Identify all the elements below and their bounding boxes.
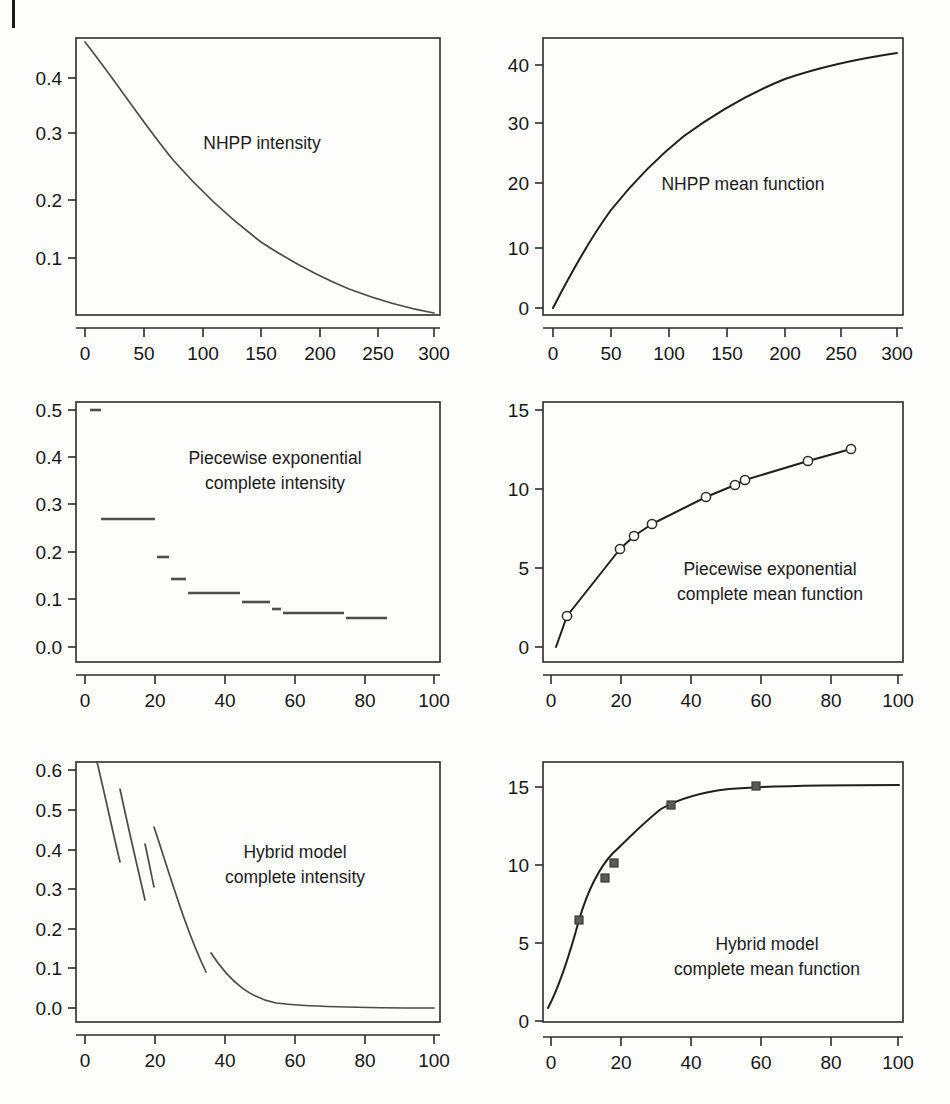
x-tick-label: 60 <box>284 1050 305 1071</box>
y-tick-label: 0.3 <box>36 494 62 515</box>
plot-frame <box>76 402 440 662</box>
data-markers <box>575 782 760 924</box>
x-tick-label: 80 <box>354 1050 375 1071</box>
y-tick-label: 0.4 <box>36 447 63 468</box>
x-tick-label: 0 <box>80 1050 91 1071</box>
y-tick-label: 0.3 <box>36 879 62 900</box>
data-point-marker <box>752 782 760 790</box>
intensity-segment <box>145 844 154 887</box>
y-tick-label: 0.4 <box>36 840 63 861</box>
panel-title-line1: Hybrid model <box>243 842 346 862</box>
x-tick-label: 0 <box>80 343 91 364</box>
data-point-marker <box>562 611 571 620</box>
data-point-marker <box>701 492 710 501</box>
intensity-segment <box>120 789 145 900</box>
y-tick-label: 0.2 <box>36 919 62 940</box>
x-axis-ticks <box>76 1035 440 1044</box>
x-tick-label: 150 <box>711 343 743 364</box>
data-point-marker <box>846 444 855 453</box>
y-tick-label: 10 <box>508 479 529 500</box>
x-tick-label: 100 <box>882 690 914 711</box>
x-tick-label: 80 <box>820 1052 841 1073</box>
x-tick-label: 0 <box>548 343 559 364</box>
plot-frame <box>76 38 440 315</box>
y-tick-label: 40 <box>508 55 529 76</box>
x-tick-label: 40 <box>214 1050 235 1071</box>
panel-piecewise-exponential-complete-intensity: 0.5 0.4 0.3 0.2 0.1 0.0 0 20 40 60 80 10… <box>0 385 470 735</box>
y-tick-label: 0.5 <box>36 400 62 421</box>
x-tick-label: 50 <box>600 343 621 364</box>
y-tick-label: 0.3 <box>36 123 62 144</box>
x-tick-label: 100 <box>882 1052 914 1073</box>
x-tick-label: 50 <box>133 343 154 364</box>
x-tick-label: 200 <box>304 343 336 364</box>
chart-nhpp-mean-function: 40 30 20 10 0 0 50 100 150 200 250 300 <box>475 20 945 370</box>
panel-title-line2: complete mean function <box>677 584 863 604</box>
data-point-marker <box>730 480 739 489</box>
x-tick-label: 100 <box>418 1050 450 1071</box>
x-axis-ticks <box>76 675 440 684</box>
x-tick-label: 300 <box>881 343 913 364</box>
panel-title: NHPP intensity <box>203 133 321 153</box>
y-tick-label: 5 <box>518 558 529 579</box>
y-tick-label: 0 <box>518 298 529 319</box>
data-point-marker <box>629 531 638 540</box>
panel-title-line2: complete mean function <box>674 959 860 979</box>
x-tick-label: 20 <box>610 690 631 711</box>
chart-hybrid-model-complete-mean-function: 15 10 5 0 0 20 40 60 80 100 <box>475 745 945 1095</box>
y-tick-label: 0 <box>518 1011 529 1032</box>
x-tick-label: 250 <box>825 343 857 364</box>
data-point-marker <box>615 544 624 553</box>
y-tick-label: 10 <box>508 855 529 876</box>
x-tick-label: 60 <box>750 690 771 711</box>
x-tick-label: 0 <box>80 690 91 711</box>
y-tick-label: 0.2 <box>36 190 62 211</box>
y-tick-label: 5 <box>518 933 529 954</box>
panel-title-line1: Hybrid model <box>715 934 818 954</box>
chart-nhpp-intensity: 0.4 0.3 0.2 0.1 0 50 100 150 200 250 300 <box>0 20 470 370</box>
y-tick-label: 0.1 <box>36 589 62 610</box>
panel-title-line1: Piecewise exponential <box>683 559 856 579</box>
intensity-segment <box>97 762 120 862</box>
panel-nhpp-mean-function: 40 30 20 10 0 0 50 100 150 200 250 300 <box>475 20 945 370</box>
data-point-marker <box>575 916 583 924</box>
y-tick-label: 0 <box>518 637 529 658</box>
plot-frame <box>543 402 903 662</box>
x-tick-label: 80 <box>820 690 841 711</box>
x-tick-label: 100 <box>653 343 685 364</box>
y-axis-ticks <box>535 65 543 308</box>
x-tick-label: 250 <box>362 343 394 364</box>
y-axis-ticks <box>535 787 543 1021</box>
y-tick-label: 20 <box>508 173 529 194</box>
chart-piecewise-exponential-complete-mean-function: 15 10 5 0 0 20 40 60 80 100 <box>475 385 945 735</box>
chart-piecewise-exponential-complete-intensity: 0.5 0.4 0.3 0.2 0.1 0.0 0 20 40 60 80 10… <box>0 385 470 735</box>
data-curve <box>85 42 434 313</box>
y-tick-label: 30 <box>508 113 529 134</box>
chart-hybrid-model-complete-intensity: 0.6 0.5 0.4 0.3 0.2 0.1 0.0 0 20 40 60 8… <box>0 745 470 1095</box>
panel-nhpp-intensity: 0.4 0.3 0.2 0.1 0 50 100 150 200 250 300 <box>0 20 470 370</box>
x-tick-label: 60 <box>750 1052 771 1073</box>
x-tick-label: 100 <box>187 343 219 364</box>
x-axis-ticks <box>543 328 903 337</box>
y-tick-label: 15 <box>508 777 529 798</box>
x-axis-ticks <box>543 675 903 684</box>
x-tick-label: 0 <box>546 1052 557 1073</box>
panel-title-line2: complete intensity <box>225 867 365 887</box>
panel-title-line2: complete intensity <box>205 473 345 493</box>
x-tick-label: 300 <box>418 343 450 364</box>
x-tick-label: 20 <box>144 690 165 711</box>
x-tick-label: 40 <box>680 1052 701 1073</box>
data-point-marker <box>610 859 618 867</box>
y-axis-ticks <box>68 78 76 258</box>
data-point-marker <box>647 519 656 528</box>
panel-piecewise-exponential-complete-mean-function: 15 10 5 0 0 20 40 60 80 100 <box>475 385 945 735</box>
x-tick-label: 40 <box>680 690 701 711</box>
y-axis-ticks <box>68 410 76 647</box>
y-tick-label: 0.1 <box>36 248 62 269</box>
intensity-segment <box>154 827 206 972</box>
x-axis-ticks <box>76 328 440 337</box>
x-tick-label: 100 <box>418 690 450 711</box>
x-tick-label: 20 <box>144 1050 165 1071</box>
y-tick-label: 0.4 <box>36 68 63 89</box>
x-tick-label: 20 <box>610 1052 631 1073</box>
